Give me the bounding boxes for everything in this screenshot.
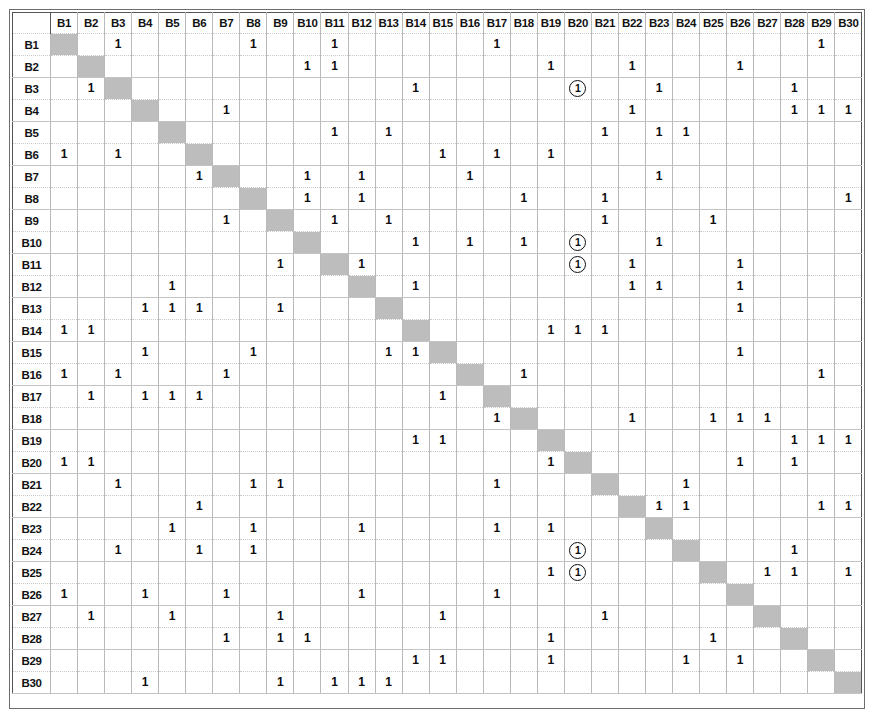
matrix-cell-b15-b5[interactable] bbox=[159, 342, 186, 364]
matrix-cell-b27-b26[interactable] bbox=[727, 606, 754, 628]
matrix-cell-b16-b19[interactable] bbox=[537, 364, 564, 386]
matrix-cell-b20-b5[interactable] bbox=[159, 452, 186, 474]
matrix-cell-b16-b18[interactable]: 1 bbox=[510, 364, 537, 386]
matrix-cell-b6-b10[interactable] bbox=[294, 144, 321, 166]
matrix-cell-b18-b14[interactable] bbox=[402, 408, 429, 430]
matrix-cell-b2-b15[interactable] bbox=[429, 56, 456, 78]
matrix-cell-b15-b23[interactable] bbox=[646, 342, 673, 364]
matrix-cell-b23-b20[interactable] bbox=[564, 518, 591, 540]
matrix-cell-b27-b21[interactable]: 1 bbox=[591, 606, 618, 628]
matrix-row[interactable]: B1211111 bbox=[13, 276, 862, 298]
matrix-cell-b5-b1[interactable] bbox=[51, 122, 78, 144]
matrix-cell-b7-b17[interactable] bbox=[483, 166, 510, 188]
matrix-cell-b20-b21[interactable] bbox=[591, 452, 618, 474]
matrix-cell-b28-b19[interactable]: 1 bbox=[537, 628, 564, 650]
matrix-cell-b12-b20[interactable] bbox=[564, 276, 591, 298]
matrix-cell-b1-b27[interactable] bbox=[754, 34, 781, 56]
matrix-cell-b27-b16[interactable] bbox=[456, 606, 483, 628]
matrix-cell-b7-b1[interactable] bbox=[51, 166, 78, 188]
matrix-cell-b28-b15[interactable] bbox=[429, 628, 456, 650]
matrix-cell-b14-b5[interactable] bbox=[159, 320, 186, 342]
matrix-cell-b3-b27[interactable] bbox=[754, 78, 781, 100]
matrix-cell-b7-b11[interactable] bbox=[321, 166, 348, 188]
matrix-cell-b1-b19[interactable] bbox=[537, 34, 564, 56]
matrix-cell-b28-b3[interactable] bbox=[105, 628, 132, 650]
matrix-cell-b1-b11[interactable]: 1 bbox=[321, 34, 348, 56]
row-header-b8[interactable]: B8 bbox=[13, 188, 51, 210]
matrix-cell-b30-b28[interactable] bbox=[781, 672, 808, 694]
matrix-cell-b3-b8[interactable] bbox=[240, 78, 267, 100]
matrix-cell-b11-b23[interactable] bbox=[646, 254, 673, 276]
matrix-cell-b4-b27[interactable] bbox=[754, 100, 781, 122]
matrix-cell-b7-b13[interactable] bbox=[375, 166, 402, 188]
matrix-cell-b19-b5[interactable] bbox=[159, 430, 186, 452]
column-header-b5[interactable]: B5 bbox=[159, 13, 186, 34]
matrix-cell-b4-b15[interactable] bbox=[429, 100, 456, 122]
matrix-cell-b6-b1[interactable]: 1 bbox=[51, 144, 78, 166]
matrix-cell-b8-b9[interactable] bbox=[267, 188, 294, 210]
matrix-cell-b6-b8[interactable] bbox=[240, 144, 267, 166]
matrix-cell-b15-b16[interactable] bbox=[456, 342, 483, 364]
matrix-cell-b1-b28[interactable] bbox=[781, 34, 808, 56]
matrix-cell-b4-b14[interactable] bbox=[402, 100, 429, 122]
matrix-cell-b8-b6[interactable] bbox=[186, 188, 213, 210]
matrix-cell-b15-b6[interactable] bbox=[186, 342, 213, 364]
matrix-cell-b20-b16[interactable] bbox=[456, 452, 483, 474]
matrix-cell-b15-b19[interactable] bbox=[537, 342, 564, 364]
matrix-cell-b20-b22[interactable] bbox=[618, 452, 645, 474]
matrix-row[interactable]: B811111 bbox=[13, 188, 862, 210]
matrix-cell-b11-b20[interactable]: 1 bbox=[564, 254, 591, 276]
matrix-cell-b8-b3[interactable] bbox=[105, 188, 132, 210]
matrix-cell-b29-b19[interactable]: 1 bbox=[537, 650, 564, 672]
matrix-cell-b18-b20[interactable] bbox=[564, 408, 591, 430]
matrix-cell-b17-b25[interactable] bbox=[700, 386, 727, 408]
matrix-cell-b4-b18[interactable] bbox=[510, 100, 537, 122]
matrix-cell-b11-b15[interactable] bbox=[429, 254, 456, 276]
matrix-cell-b20-b28[interactable]: 1 bbox=[781, 452, 808, 474]
matrix-cell-b24-b14[interactable] bbox=[402, 540, 429, 562]
matrix-cell-b14-b8[interactable] bbox=[240, 320, 267, 342]
matrix-cell-b13-b6[interactable]: 1 bbox=[186, 298, 213, 320]
matrix-cell-b18-b15[interactable] bbox=[429, 408, 456, 430]
matrix-cell-b29-b16[interactable] bbox=[456, 650, 483, 672]
matrix-row[interactable]: B2811111 bbox=[13, 628, 862, 650]
matrix-cell-b8-b2[interactable] bbox=[78, 188, 105, 210]
matrix-cell-b22-b10[interactable] bbox=[294, 496, 321, 518]
matrix-cell-b28-b9[interactable]: 1 bbox=[267, 628, 294, 650]
matrix-cell-b4-b12[interactable] bbox=[348, 100, 375, 122]
matrix-cell-b3-b2[interactable]: 1 bbox=[78, 78, 105, 100]
matrix-cell-b9-b16[interactable] bbox=[456, 210, 483, 232]
row-header-b29[interactable]: B29 bbox=[13, 650, 51, 672]
matrix-cell-b18-b26[interactable]: 1 bbox=[727, 408, 754, 430]
matrix-cell-b24-b5[interactable] bbox=[159, 540, 186, 562]
matrix-cell-b7-b9[interactable] bbox=[267, 166, 294, 188]
matrix-cell-b18-b23[interactable] bbox=[646, 408, 673, 430]
matrix-cell-b23-b17[interactable]: 1 bbox=[483, 518, 510, 540]
matrix-cell-b19-b20[interactable] bbox=[564, 430, 591, 452]
matrix-cell-b9-b1[interactable] bbox=[51, 210, 78, 232]
matrix-cell-b7-b12[interactable]: 1 bbox=[348, 166, 375, 188]
matrix-cell-b8-b4[interactable] bbox=[132, 188, 159, 210]
matrix-row[interactable]: B111111 bbox=[13, 34, 862, 56]
matrix-cell-b29-b18[interactable] bbox=[510, 650, 537, 672]
matrix-cell-b5-b4[interactable] bbox=[132, 122, 159, 144]
matrix-cell-b26-b6[interactable] bbox=[186, 584, 213, 606]
matrix-cell-b17-b23[interactable] bbox=[646, 386, 673, 408]
matrix-cell-b14-b12[interactable] bbox=[348, 320, 375, 342]
matrix-cell-b21-b28[interactable] bbox=[781, 474, 808, 496]
row-header-b28[interactable]: B28 bbox=[13, 628, 51, 650]
matrix-cell-b24-b16[interactable] bbox=[456, 540, 483, 562]
matrix-cell-b5-b22[interactable] bbox=[618, 122, 645, 144]
matrix-row[interactable]: B1911111 bbox=[13, 430, 862, 452]
matrix-cell-b10-b26[interactable] bbox=[727, 232, 754, 254]
matrix-cell-b20-b19[interactable]: 1 bbox=[537, 452, 564, 474]
matrix-cell-b17-b28[interactable] bbox=[781, 386, 808, 408]
matrix-cell-b28-b26[interactable] bbox=[727, 628, 754, 650]
matrix-cell-b14-b28[interactable] bbox=[781, 320, 808, 342]
matrix-cell-b3-b10[interactable] bbox=[294, 78, 321, 100]
matrix-cell-b17-b3[interactable] bbox=[105, 386, 132, 408]
matrix-cell-b24-b6[interactable]: 1 bbox=[186, 540, 213, 562]
matrix-cell-b6-b3[interactable]: 1 bbox=[105, 144, 132, 166]
matrix-cell-b8-b24[interactable] bbox=[673, 188, 700, 210]
matrix-cell-b10-b7[interactable] bbox=[213, 232, 240, 254]
